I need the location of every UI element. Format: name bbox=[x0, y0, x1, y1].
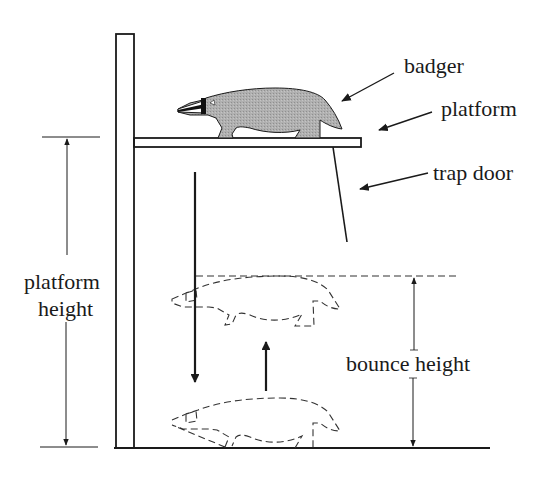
trap-door bbox=[333, 147, 347, 242]
platform-height-label-line1: platform bbox=[24, 269, 100, 294]
platform-height-label-line2: height bbox=[38, 296, 93, 321]
badger-ghost-bounce bbox=[172, 276, 340, 326]
platform-pointer-arrow bbox=[379, 112, 432, 130]
trap-door-label: trap door bbox=[433, 160, 514, 185]
badger-label: badger bbox=[404, 53, 465, 78]
platform-label: platform bbox=[441, 96, 517, 121]
badger-pointer-arrow bbox=[342, 73, 394, 101]
drop-test-diagram: badger platform trap door platform heigh… bbox=[0, 0, 533, 479]
badger-ghost-ground bbox=[172, 398, 340, 448]
trap-door-pointer-arrow bbox=[360, 173, 428, 189]
platform bbox=[134, 138, 361, 147]
badger-solid bbox=[178, 88, 342, 138]
pole bbox=[116, 34, 134, 448]
bounce-height-label: bounce height bbox=[346, 351, 470, 376]
